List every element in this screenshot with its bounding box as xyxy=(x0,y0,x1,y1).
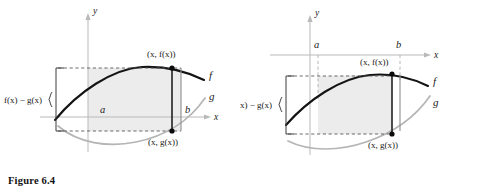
curly-brace-left xyxy=(49,92,52,107)
x-axis-right xyxy=(270,52,431,57)
difference-label-right: f(x) − g(x) xyxy=(240,100,272,110)
panel-left: y x (x, f(x)) (x, g(x)) a b f g xyxy=(0,0,240,170)
shaded-region-left xyxy=(88,68,181,131)
figure-caption: Figure 6.4 xyxy=(8,175,55,186)
point-upper-right xyxy=(389,71,394,76)
curve-f-label-right: f xyxy=(433,75,438,87)
point-lower-label-left: (x, g(x)) xyxy=(148,137,178,147)
y-axis-label-right: y xyxy=(314,8,320,18)
measure-bracket-left xyxy=(56,68,64,131)
panel-right: y x a b (x, f(x)) (x, g(x)) f g xyxy=(240,0,480,170)
x-axis-label-right: x xyxy=(433,50,439,60)
bound-b-label-right: b xyxy=(396,39,401,50)
bound-a-label-left: a xyxy=(100,104,105,115)
bound-a-label-right: a xyxy=(314,39,319,50)
y-axis-label-left: y xyxy=(92,6,98,16)
bound-b-label-left: b xyxy=(185,104,190,115)
point-upper-label-right: (x, f(x)) xyxy=(360,57,389,67)
x-axis-label-left: x xyxy=(213,112,219,122)
point-lower-right xyxy=(389,131,394,136)
shaded-region-right xyxy=(318,73,392,134)
point-lower-label-right: (x, g(x)) xyxy=(368,140,398,150)
curve-g-label-right: g xyxy=(433,96,439,108)
point-upper-left xyxy=(169,65,174,70)
curve-g-label-left: g xyxy=(209,90,215,102)
figure-6-4: y x (x, f(x)) (x, g(x)) a b f g xyxy=(0,0,480,196)
point-lower-left xyxy=(169,128,174,133)
measure-bracket-right xyxy=(286,76,294,134)
difference-label-left: f(x) − g(x) xyxy=(4,95,42,105)
curly-brace-right xyxy=(279,97,282,112)
point-upper-label-left: (x, f(x)) xyxy=(147,49,176,59)
curve-f-label-left: f xyxy=(209,69,214,81)
